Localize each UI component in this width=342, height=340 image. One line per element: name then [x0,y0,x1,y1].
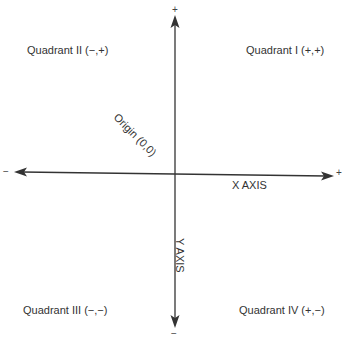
y-axis [171,15,180,328]
y-positive-sign: + [172,5,178,15]
x-negative-sign: − [3,167,9,177]
x-axis-label: X AXIS [232,179,267,191]
quadrant-3-label: Quadrant III (−,−) [23,304,107,316]
y-negative-sign: − [171,329,177,339]
x-positive-sign: + [336,168,342,178]
quadrant-1-label: Quadrant I (+,+) [246,44,324,56]
x-axis [14,168,334,181]
y-axis-label: Y AXIS [174,238,186,273]
quadrant-4-label: Quadrant IV (+,−) [239,304,325,316]
quadrant-2-label: Quadrant II (−,+) [27,44,108,56]
